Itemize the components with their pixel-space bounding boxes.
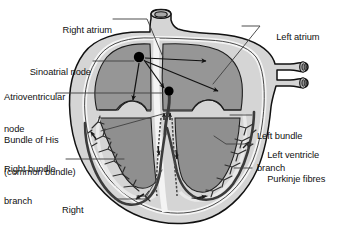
arrow-rv-down	[158, 146, 159, 155]
atrioventricular-node-marker	[164, 86, 173, 95]
heart-conduction-diagram: Right atrium Sinoatrial node Atrioventri…	[0, 0, 346, 228]
label-left-ventricle-text: Left ventricle	[267, 150, 319, 160]
label-left-atrium: Left atrium	[266, 21, 342, 53]
sinoatrial-node-marker	[134, 52, 144, 62]
label-purkinje-fibres-text: Purkinje fibres	[267, 174, 325, 184]
label-right-ventricle-line1: Right	[62, 205, 114, 216]
arrow-lv-down	[176, 150, 177, 159]
pulmonary-vein-upper-lumen	[302, 64, 305, 70]
label-purkinje-fibres: Purkinje fibres	[257, 163, 343, 195]
label-right-atrium-text: Right atrium	[62, 25, 112, 35]
label-right-bundle-branch-line1: Right bundle	[4, 164, 84, 175]
label-right-ventricle: Right ventricle	[62, 184, 114, 228]
label-right-atrium: Right atrium	[8, 14, 112, 46]
pulmonary-vein-lower-lumen	[302, 80, 305, 86]
label-left-atrium-text: Left atrium	[276, 32, 319, 42]
label-atrioventricular-node-line1: Atrioventricular	[4, 92, 100, 103]
aorta-inner-ring	[155, 12, 167, 17]
